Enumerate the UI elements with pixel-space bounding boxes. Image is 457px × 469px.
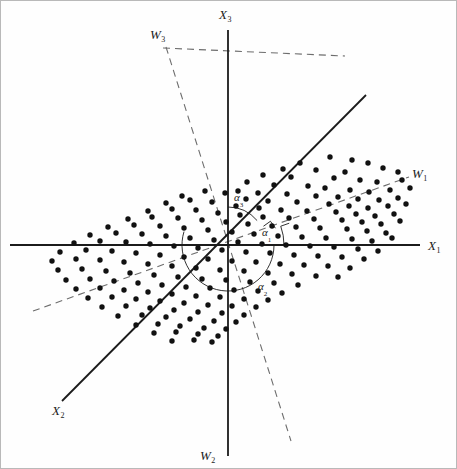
- scatter-point: [85, 295, 90, 300]
- scatter-point: [380, 165, 385, 170]
- scatter-point: [151, 330, 156, 335]
- scatter-point: [389, 235, 394, 240]
- scatter-point: [395, 195, 400, 200]
- scatter-point: [378, 221, 383, 226]
- scatter-point: [339, 217, 344, 222]
- scatter-point: [297, 160, 302, 165]
- scatter-point: [243, 196, 248, 201]
- scatter-point: [313, 193, 318, 198]
- scatter-point: [304, 208, 309, 213]
- scatter-point: [365, 160, 370, 165]
- scatter-point: [376, 197, 381, 202]
- pca-axes-scatter-diagram: [0, 0, 457, 469]
- scatter-point: [103, 268, 108, 273]
- scatter-point: [97, 238, 102, 243]
- scatter-point: [111, 278, 116, 283]
- scatter-point: [195, 309, 200, 314]
- scatter-point: [293, 224, 298, 229]
- scatter-point: [133, 322, 138, 327]
- scatter-point: [205, 302, 210, 307]
- scatter-point: [326, 201, 331, 206]
- scatter-point: [271, 182, 276, 187]
- scatter-point: [183, 284, 188, 289]
- scatter-point: [109, 294, 114, 299]
- scatter-point: [87, 276, 92, 281]
- scatter-point: [217, 267, 222, 272]
- scatter-point: [311, 216, 316, 221]
- scatter-point: [286, 215, 291, 220]
- scatter-point: [346, 203, 351, 208]
- scatter-point: [253, 259, 258, 264]
- scatter-point: [313, 273, 318, 278]
- scatter-point: [342, 169, 347, 174]
- scatter-point: [157, 223, 162, 228]
- scatter-point: [195, 245, 200, 250]
- scatter-point: [383, 230, 388, 235]
- angle-label-alpha1: α1: [262, 227, 271, 241]
- scatter-point: [271, 280, 276, 285]
- scatter-point: [295, 282, 300, 287]
- scatter-point: [145, 261, 150, 266]
- scatter-point: [193, 293, 198, 298]
- scatter-point: [301, 262, 306, 267]
- scatter-point: [209, 199, 214, 204]
- scatter-point: [260, 214, 265, 219]
- scatter-point: [123, 239, 128, 244]
- scatter-point: [375, 248, 380, 253]
- scatter-point: [241, 312, 246, 317]
- scatter-point: [369, 238, 374, 243]
- scatter-point: [169, 206, 174, 211]
- scatter-point: [181, 254, 186, 259]
- scatter-point: [79, 266, 84, 271]
- scatter-point: [222, 190, 227, 195]
- figure-canvas: W1W2W3X1X2X3α1α2α3: [0, 0, 457, 469]
- scatter-point: [265, 270, 270, 275]
- scatter-point: [199, 217, 204, 222]
- scatter-point: [187, 197, 192, 202]
- scatter-point: [229, 303, 234, 308]
- scatter-point: [333, 209, 338, 214]
- scatter-point: [83, 247, 88, 252]
- scatter-point: [55, 267, 60, 272]
- scatter-point: [223, 219, 228, 224]
- scatter-point: [147, 305, 152, 310]
- scatter-point: [179, 193, 184, 198]
- scatter-point: [205, 227, 210, 232]
- scatter-point: [407, 185, 412, 190]
- scatter-point: [391, 211, 396, 216]
- scatter-point: [299, 234, 304, 239]
- scatter-point: [133, 296, 138, 301]
- scatter-point: [277, 261, 282, 266]
- scatter-point: [247, 279, 252, 284]
- scatter-point: [403, 201, 408, 206]
- scatter-point: [256, 205, 261, 210]
- scatter-point: [49, 258, 54, 263]
- scatter-point: [201, 325, 206, 330]
- scatter-point: [169, 338, 174, 343]
- scatter-point: [397, 218, 402, 223]
- scatter-point: [73, 256, 78, 261]
- scatter-point: [372, 213, 377, 218]
- scatter-point: [331, 244, 336, 249]
- scatter-point: [307, 243, 312, 248]
- scatter-point: [275, 233, 280, 238]
- scatter-point: [109, 248, 114, 253]
- scatter-point: [265, 198, 270, 203]
- scatter-point: [187, 316, 192, 321]
- scatter-point: [335, 194, 340, 199]
- scatter-point: [288, 174, 293, 179]
- scatter-point: [331, 175, 336, 180]
- scatter-point: [279, 290, 284, 295]
- scatter-point: [191, 337, 196, 342]
- scatter-point: [219, 247, 224, 252]
- scatter-point: [121, 287, 126, 292]
- scatter-point: [237, 212, 242, 217]
- original-axis-x1-label: X1: [428, 239, 440, 252]
- scatter-point: [177, 323, 182, 328]
- scatter-point: [173, 329, 178, 334]
- angle-label-alpha3: α3: [234, 192, 243, 206]
- scatter-point: [145, 208, 150, 213]
- scatter-point: [233, 319, 238, 324]
- scatter-point: [359, 219, 364, 224]
- scatter-point: [325, 263, 330, 268]
